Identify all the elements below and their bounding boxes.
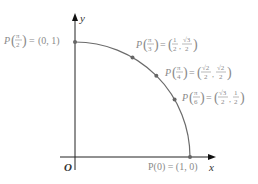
- equals: =: [206, 92, 212, 103]
- y-den: 2: [185, 45, 189, 53]
- y-num: √3: [183, 36, 191, 44]
- point-marker-p-0: [188, 155, 192, 159]
- paren-close: ): [240, 90, 245, 106]
- equals: =: [29, 35, 35, 46]
- frac-num: π: [16, 32, 20, 40]
- equals: =: [160, 39, 166, 50]
- equals: =: [189, 67, 195, 78]
- frac-den: 6: [194, 98, 198, 106]
- paren-close: ): [227, 65, 232, 81]
- frac-num: π: [194, 89, 198, 97]
- x-axis-label: x: [208, 161, 214, 173]
- label-p-pi-4: P ( π 4 ) = ( √2 2 , √2 2 ): [164, 64, 232, 81]
- label-p-0: P(0) = (1, 0): [148, 161, 198, 173]
- x-den: 2: [221, 98, 225, 106]
- paren-close: ): [200, 90, 205, 106]
- point-marker-p-pi-4: [154, 74, 158, 78]
- frac-num: π: [177, 64, 181, 72]
- y-axis-label: y: [79, 12, 85, 24]
- frac-den: 3: [148, 45, 152, 53]
- label-p-pi-3: P ( π 3 ) = ( 1 2 , √3 2 ): [135, 36, 198, 53]
- paren-close: ): [193, 37, 198, 53]
- label-P: P: [3, 35, 10, 46]
- comma: ,: [229, 95, 231, 104]
- label-P: P: [164, 67, 171, 78]
- y-den: 2: [234, 98, 238, 106]
- y-den: 2: [219, 73, 223, 81]
- label-p-pi-6: P ( π 6 ) = ( √3 2 , 1 2 ): [181, 89, 245, 106]
- x-num: 1: [173, 36, 177, 44]
- x-den: 2: [173, 45, 177, 53]
- frac-den: 4: [177, 73, 181, 81]
- label-P: P: [181, 92, 188, 103]
- point-marker-p-pi-3: [131, 55, 135, 59]
- comma: ,: [212, 70, 214, 79]
- point-marker-p-pi-6: [173, 98, 177, 102]
- x-num: √3: [219, 89, 227, 97]
- y-num: √2: [217, 64, 225, 72]
- origin-label: O: [64, 161, 72, 173]
- frac-num: π: [148, 36, 152, 44]
- paren-close: ): [183, 65, 188, 81]
- point-marker-p-pi-2: [73, 40, 77, 44]
- x-num: √2: [202, 64, 210, 72]
- label-P: P: [135, 39, 142, 50]
- y-axis-arrow: [72, 13, 78, 21]
- label-p-pi-2: P ( π 2 ) = (0, 1): [3, 32, 60, 49]
- paren-close: ): [22, 33, 27, 49]
- x-axis-arrow: [208, 154, 216, 160]
- x-den: 2: [204, 73, 208, 81]
- y-num: 1: [234, 89, 238, 97]
- comma: ,: [179, 42, 181, 51]
- paren-close: ): [154, 37, 159, 53]
- unit-circle-diagram: x y O P ( π 2 ) = (0, 1) P ( π 3 ) = ( 1…: [0, 0, 258, 184]
- frac-den: 2: [16, 41, 20, 49]
- coord-value: (0, 1): [38, 35, 60, 47]
